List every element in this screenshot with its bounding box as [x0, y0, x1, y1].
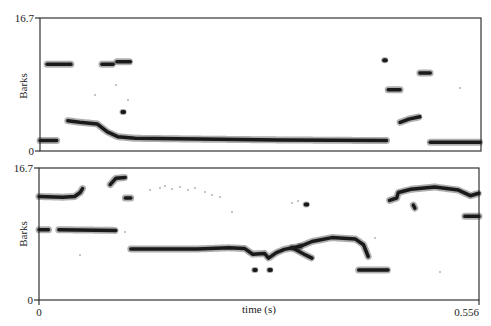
noise-speck: [297, 200, 298, 201]
upper-ytick-max-label: 16.7: [15, 12, 35, 24]
noise-speck: [194, 187, 195, 188]
noise-speck: [231, 211, 232, 212]
noise-speck: [171, 188, 172, 189]
spectral-trace: [59, 230, 116, 231]
noise-speck: [374, 237, 375, 238]
noise-speck: [159, 187, 160, 188]
noise-speck: [79, 254, 80, 255]
lower-panel: 16.7 0 0 0.556 time (s) Barks: [14, 162, 480, 318]
noise-speck: [179, 186, 180, 187]
noise-speck: [211, 194, 212, 195]
noise-speck: [127, 99, 128, 100]
noise-speck: [291, 202, 292, 203]
noise-speck: [94, 94, 95, 95]
spectral-trace: [413, 205, 415, 208]
lower-traces: [39, 178, 479, 273]
noise-speck: [204, 191, 205, 192]
lower-ytick-min-label: 0: [28, 294, 34, 306]
spectrogram-figure: 16.7 0 Barks 16.7 0 0 0.556 time (s) Bar…: [0, 0, 491, 326]
noise-speck: [459, 87, 460, 88]
noise-speck: [149, 189, 150, 190]
upper-y-axis-label: Barks: [17, 73, 29, 99]
lower-ytick-max-label: 16.7: [14, 162, 34, 174]
upper-panel: 16.7 0 Barks: [15, 12, 481, 157]
upper-traces: [40, 60, 480, 142]
upper-ytick-min-label: 0: [29, 145, 35, 157]
noise-speck: [124, 231, 125, 232]
noise-speck: [219, 196, 220, 197]
lower-y-axis-label: Barks: [17, 221, 29, 247]
x-axis-label: time (s): [242, 303, 276, 316]
noise-speck: [164, 185, 165, 186]
x-axis-max-label: 0.556: [454, 306, 479, 318]
x-axis-min-label: 0: [36, 306, 42, 318]
noise-speck: [439, 271, 440, 272]
noise-speck: [115, 84, 116, 85]
noise-speck: [187, 189, 188, 190]
